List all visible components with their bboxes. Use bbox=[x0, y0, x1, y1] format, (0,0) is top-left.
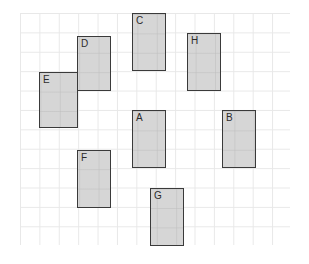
rectangle-d[interactable]: D bbox=[77, 36, 111, 91]
rectangle-label: A bbox=[136, 112, 143, 123]
rectangle-label: E bbox=[43, 74, 50, 85]
rectangle-label: G bbox=[154, 190, 162, 201]
rectangle-label: C bbox=[136, 15, 143, 26]
rectangle-b[interactable]: B bbox=[222, 110, 256, 168]
diagram-canvas: ABCDEFGH bbox=[0, 0, 309, 264]
rectangle-label: D bbox=[81, 38, 88, 49]
rectangle-label: B bbox=[226, 112, 233, 123]
rectangle-g[interactable]: G bbox=[150, 188, 184, 246]
rectangle-a[interactable]: A bbox=[132, 110, 166, 168]
rectangle-label: F bbox=[81, 152, 87, 163]
rectangle-label: H bbox=[191, 35, 198, 46]
rectangle-c[interactable]: C bbox=[132, 13, 166, 71]
rectangle-e[interactable]: E bbox=[39, 72, 78, 128]
rectangle-h[interactable]: H bbox=[187, 33, 221, 91]
rectangle-f[interactable]: F bbox=[77, 150, 111, 208]
